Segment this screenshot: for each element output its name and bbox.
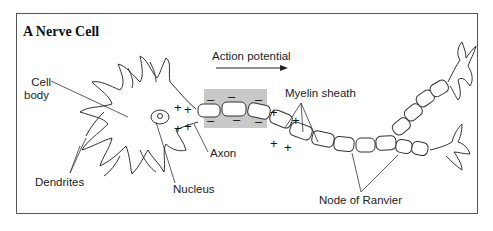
action-potential-arrow [216, 65, 288, 71]
axon-terminals [430, 42, 476, 170]
cell-body [80, 56, 198, 176]
label-cell-body-line2: body [24, 89, 51, 102]
positive-charge: + [174, 100, 182, 115]
positive-charge: + [184, 102, 192, 117]
nerve-cell-illustration: + + + + + + + + – – – – – – [0, 0, 493, 231]
label-dendrites: Dendrites [35, 176, 84, 189]
label-nucleus: Nucleus [173, 183, 215, 196]
negative-charge: – [255, 92, 263, 107]
negative-charge: – [255, 114, 263, 129]
label-axon: Axon [210, 147, 236, 160]
positive-charge: + [270, 105, 278, 120]
positive-charge: + [184, 119, 192, 134]
label-action-potential: Action potential [212, 50, 291, 63]
label-node-of-ranvier: Node of Ranvier [319, 194, 402, 207]
positive-charge: + [174, 121, 182, 136]
negative-charge: – [233, 112, 241, 127]
label-cell-body: Cell body [24, 76, 51, 102]
positive-charge: + [284, 140, 292, 155]
positive-charge: + [270, 136, 278, 151]
negative-charge: – [207, 92, 215, 107]
label-myelin-sheath: Myelin sheath [285, 87, 356, 100]
label-cell-body-line1: Cell [24, 76, 51, 89]
negative-charge: – [207, 113, 215, 128]
negative-charge: – [228, 89, 236, 104]
nucleus [151, 110, 169, 124]
